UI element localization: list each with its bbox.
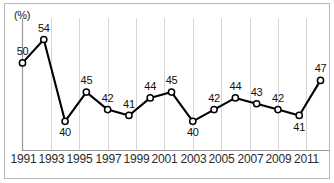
- data-point-value-label: 54: [38, 22, 50, 34]
- data-point-value-label: 50: [17, 45, 29, 57]
- x-axis-tick-label: 2011: [294, 152, 319, 166]
- data-point-marker[interactable]: [232, 95, 238, 101]
- x-axis-tick-label: 1993: [39, 152, 65, 166]
- data-point-marker[interactable]: [126, 112, 132, 118]
- data-point-value-label: 45: [166, 74, 178, 86]
- data-point-marker[interactable]: [275, 107, 281, 113]
- x-axis-tick-label: 2003: [181, 152, 207, 166]
- data-point-value-label: 40: [187, 126, 199, 138]
- data-point-value-label: 40: [59, 126, 71, 138]
- data-point-value-label: 44: [144, 80, 156, 92]
- data-point-value-label: 41: [293, 121, 305, 133]
- x-axis-tick-label: 1997: [96, 152, 122, 166]
- data-point-value-label: 43: [251, 86, 263, 98]
- data-point-marker[interactable]: [190, 118, 196, 124]
- data-point-value-label: 42: [102, 92, 114, 104]
- chart-figure: (%) 505440454241444540424443424147 19911…: [0, 0, 334, 183]
- data-point-value-label: 45: [81, 74, 93, 86]
- x-axis-tick-label: 2001: [152, 152, 178, 166]
- data-point-value-label: 47: [315, 62, 327, 74]
- x-axis-tick-label: 1999: [124, 152, 150, 166]
- x-axis-tick-label: 2007: [238, 152, 264, 166]
- data-point-marker[interactable]: [254, 101, 260, 107]
- x-axis-tick-label: 1995: [67, 152, 93, 166]
- data-point-value-label: 42: [208, 92, 220, 104]
- data-point-marker[interactable]: [147, 95, 153, 101]
- data-point-marker[interactable]: [105, 107, 111, 113]
- data-point-marker[interactable]: [83, 89, 89, 95]
- x-axis-labels: 1991199319951997199920012003200520072009…: [0, 152, 334, 172]
- data-point-marker[interactable]: [41, 36, 47, 42]
- x-axis-tick-label: 2009: [266, 152, 292, 166]
- data-point-marker[interactable]: [296, 112, 302, 118]
- data-point-marker[interactable]: [211, 107, 217, 113]
- data-point-value-label: 42: [272, 92, 284, 104]
- x-axis-tick-label: 1991: [11, 152, 37, 166]
- data-point-value-label: 44: [230, 80, 242, 92]
- data-point-value-label: 41: [123, 98, 135, 110]
- data-point-marker[interactable]: [168, 89, 174, 95]
- data-point-marker[interactable]: [62, 118, 68, 124]
- x-axis-tick-label: 2005: [209, 152, 235, 166]
- data-point-marker[interactable]: [19, 60, 25, 66]
- data-point-marker[interactable]: [317, 77, 323, 83]
